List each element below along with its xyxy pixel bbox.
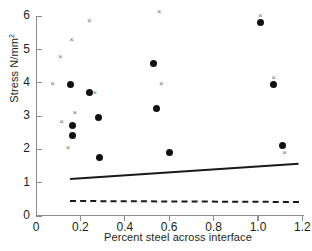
data-point-cross: × — [58, 118, 65, 125]
data-point-cross: × — [91, 89, 98, 96]
y-tick — [36, 215, 42, 216]
y-tick-label: 5 — [4, 42, 30, 56]
data-point-circle — [67, 81, 74, 88]
data-point-circle — [95, 114, 102, 121]
y-tick — [36, 116, 42, 117]
y-tick — [36, 49, 42, 50]
data-point-cross: × — [156, 8, 163, 15]
data-point-circle — [166, 149, 173, 156]
x-tick-label: 0.2 — [60, 220, 100, 234]
data-point-cross: × — [68, 36, 75, 43]
y-tick — [36, 82, 42, 83]
x-tick-label: 0.8 — [194, 220, 234, 234]
x-tick-label: 0.4 — [105, 220, 145, 234]
data-point-cross: × — [65, 144, 72, 151]
data-point-circle — [96, 154, 103, 161]
data-point-circle — [69, 122, 76, 129]
x-axis-spine — [36, 215, 304, 216]
data-point-cross: × — [57, 53, 64, 60]
y-tick-label: 6 — [4, 8, 30, 22]
scatter-chart: Stress N/mm2 Percent steel across interf… — [0, 0, 312, 251]
y-tick — [36, 182, 42, 183]
solid-trend-line — [70, 163, 299, 180]
y-tick-label: 1 — [4, 175, 30, 189]
data-point-cross: × — [270, 74, 277, 81]
x-tick-label: 0 — [16, 220, 56, 234]
y-tick-label: 3 — [4, 108, 30, 122]
y-tick — [36, 16, 42, 17]
y-axis-label-exponent: 2 — [8, 34, 15, 38]
data-point-cross: × — [49, 80, 56, 87]
data-point-circle — [153, 105, 160, 112]
x-tick-label: 1.2 — [282, 220, 312, 234]
data-point-cross: × — [71, 109, 78, 116]
data-point-circle — [69, 132, 76, 139]
y-tick-label: 4 — [4, 75, 30, 89]
x-tick-label: 1.0 — [238, 220, 278, 234]
data-point-cross: × — [281, 149, 288, 156]
dashed-trend-line — [70, 200, 299, 203]
data-point-circle — [150, 60, 157, 67]
data-point-cross: × — [158, 80, 165, 87]
data-point-circle — [257, 19, 264, 26]
data-point-cross: × — [86, 17, 93, 24]
x-tick-label: 0.6 — [149, 220, 189, 234]
y-tick-label: 2 — [4, 141, 30, 155]
data-point-cross: × — [257, 12, 264, 19]
y-tick — [36, 149, 42, 150]
